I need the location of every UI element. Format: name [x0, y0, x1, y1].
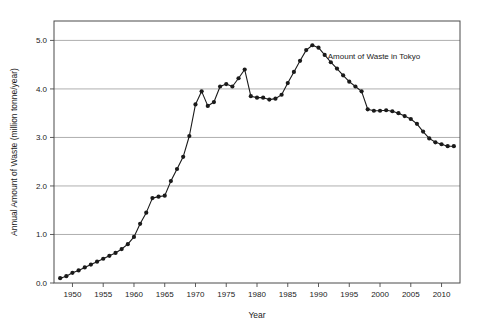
data-point-marker: [132, 235, 136, 239]
data-point-marker: [409, 117, 413, 121]
data-point-marker: [156, 195, 160, 199]
data-point-marker: [89, 262, 93, 266]
data-point-marker: [378, 109, 382, 113]
data-point-marker: [353, 84, 357, 88]
x-tick-label: 1970: [187, 290, 205, 299]
data-point-marker: [439, 142, 443, 146]
x-tick-label: 1980: [248, 290, 266, 299]
data-point-marker: [286, 81, 290, 85]
data-point-marker: [280, 93, 284, 97]
data-point-marker: [433, 140, 437, 144]
data-point-marker: [372, 109, 376, 113]
data-point-marker: [366, 107, 370, 111]
data-point-marker: [206, 104, 210, 108]
y-tick-label: 2.0: [36, 182, 48, 191]
x-axis-tick-labels: 1950195519601965197019751980198519901995…: [64, 290, 451, 299]
data-point-marker: [58, 276, 62, 280]
data-point-marker: [384, 108, 388, 112]
x-axis-ticks: [72, 283, 441, 287]
data-point-marker: [169, 179, 173, 183]
data-point-marker: [427, 136, 431, 140]
data-point-marker: [230, 84, 234, 88]
y-axis-ticks: [50, 40, 54, 283]
series-annotation: Amount of Waste in Tokyo: [328, 52, 421, 61]
data-point-marker: [163, 194, 167, 198]
data-point-marker: [396, 111, 400, 115]
x-tick-label: 1985: [279, 290, 297, 299]
data-point-marker: [446, 144, 450, 148]
data-point-marker: [243, 67, 247, 71]
y-axis-title: Annual Amount of Waste (million tonne/ye…: [9, 68, 19, 236]
data-point-marker: [359, 89, 363, 93]
data-point-marker: [273, 97, 277, 101]
data-point-marker: [323, 53, 327, 57]
x-tick-label: 1995: [340, 290, 358, 299]
data-point-marker: [421, 130, 425, 134]
y-tick-label: 4.0: [36, 85, 48, 94]
data-point-marker: [390, 109, 394, 113]
x-tick-label: 2005: [402, 290, 420, 299]
data-point-marker: [304, 48, 308, 52]
y-tick-label: 1.0: [36, 230, 48, 239]
data-point-marker: [218, 84, 222, 88]
x-tick-label: 1990: [310, 290, 328, 299]
data-point-marker: [200, 89, 204, 93]
data-point-marker: [175, 167, 179, 171]
data-point-marker: [267, 98, 271, 102]
data-point-marker: [107, 254, 111, 258]
data-point-marker: [144, 211, 148, 215]
data-point-marker: [64, 274, 68, 278]
x-axis-title: Year: [248, 310, 265, 320]
data-point-marker: [77, 268, 81, 272]
data-point-marker: [181, 155, 185, 159]
data-point-marker: [310, 43, 314, 47]
data-point-marker: [126, 242, 130, 246]
data-point-marker: [113, 251, 117, 255]
data-point-marker: [83, 265, 87, 269]
data-point-marker: [212, 100, 216, 104]
data-point-marker: [415, 122, 419, 126]
data-point-marker: [150, 196, 154, 200]
data-point-marker: [292, 70, 296, 74]
data-point-marker: [249, 94, 253, 98]
data-point-marker: [255, 96, 259, 100]
data-point-marker: [261, 96, 265, 100]
y-tick-label: 3.0: [36, 133, 48, 142]
data-point-marker: [403, 114, 407, 118]
data-point-marker: [193, 102, 197, 106]
y-tick-label: 0.0: [36, 279, 48, 288]
chart-figure: 1950195519601965197019751980198519901995…: [0, 0, 478, 329]
data-point-marker: [316, 46, 320, 50]
x-tick-label: 1955: [94, 290, 112, 299]
data-point-marker: [452, 144, 456, 148]
data-point-marker: [138, 222, 142, 226]
data-point-marker: [95, 260, 99, 264]
data-point-marker: [341, 73, 345, 77]
x-tick-label: 1960: [125, 290, 143, 299]
waste-line-chart: 1950195519601965197019751980198519901995…: [0, 0, 478, 329]
x-tick-label: 1950: [64, 290, 82, 299]
data-point-marker: [335, 66, 339, 70]
data-point-marker: [347, 80, 351, 84]
x-tick-label: 1965: [156, 290, 174, 299]
x-tick-label: 2000: [371, 290, 389, 299]
data-point-marker: [298, 59, 302, 63]
x-tick-label: 1975: [217, 290, 235, 299]
y-tick-label: 5.0: [36, 36, 48, 45]
data-point-marker: [236, 76, 240, 80]
y-axis-tick-labels: 0.01.02.03.04.05.0: [36, 36, 48, 288]
data-point-marker: [70, 271, 74, 275]
data-point-marker: [101, 257, 105, 261]
series-annotation-group: Amount of Waste in Tokyo: [328, 52, 421, 61]
x-tick-label: 2010: [433, 290, 451, 299]
data-point-marker: [187, 134, 191, 138]
data-point-marker: [120, 247, 124, 251]
data-point-marker: [224, 82, 228, 86]
